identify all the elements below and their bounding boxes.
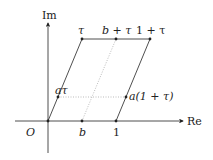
label-b-plus-tau: b + τ [102,24,132,37]
point-a-one-plus-tau [125,96,128,99]
label-tau: τ [78,24,85,37]
label-one-plus-tau: 1 + τ [136,24,165,37]
y-axis-label: Im [42,9,57,22]
label-a-one-plus-tau: a(1 + τ) [129,90,173,103]
label-one: 1 [113,126,120,139]
lattice-diagram: Im Re O b 1 τ b + τ 1 + τ aτ a(1 + τ) [0,0,213,160]
point-one-plus-tau [149,38,152,41]
point-origin [47,120,50,123]
point-one [115,120,118,123]
label-a-tau: aτ [55,84,69,97]
edge-origin-to-tau [48,39,82,121]
point-b-plus-tau [115,38,118,41]
edge-one-to-one-plus-tau [116,39,150,121]
x-axis-label: Re [187,115,202,128]
dotted-b-to-b-plus-tau [82,39,116,121]
label-b: b [79,126,86,139]
origin-label: O [26,126,35,139]
point-b [81,120,84,123]
point-tau [81,38,84,41]
